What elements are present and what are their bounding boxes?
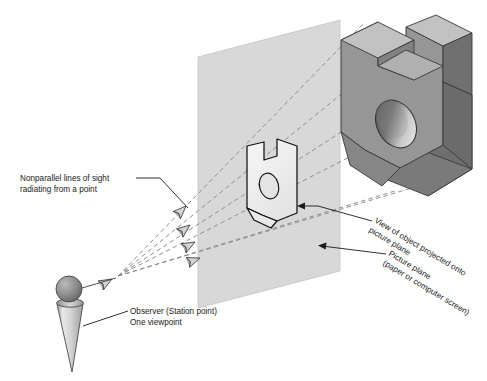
perspective-projection-diagram: Nonparallel lines of sight radiating fro…: [0, 0, 487, 381]
sight-line-arrowheads: [98, 202, 202, 290]
observer-cone-body: [57, 304, 83, 372]
sight-arrowhead-1: [173, 202, 190, 219]
label-observer: Observer (Station point) One viewpoint: [130, 307, 217, 327]
label-observer-line1: Observer (Station point): [130, 307, 217, 316]
observer-figure: [56, 276, 84, 372]
observer-head: [56, 276, 82, 302]
label-picture-plane: Picture plane (paper or computer screen): [381, 249, 477, 317]
observer-eye-to-station-line: [82, 278, 116, 288]
leader-sight-lines: [136, 178, 188, 208]
figure-canvas: Nonparallel lines of sight radiating fro…: [0, 0, 487, 381]
leader-observer: [83, 311, 128, 326]
three-d-object: [341, 15, 472, 196]
label-sight-lines: Nonparallel lines of sight radiating fro…: [20, 174, 110, 194]
label-sight-lines-line1: Nonparallel lines of sight: [20, 174, 110, 183]
label-observer-line2: One viewpoint: [130, 318, 183, 327]
label-sight-lines-line2: radiating from a point: [20, 185, 98, 194]
